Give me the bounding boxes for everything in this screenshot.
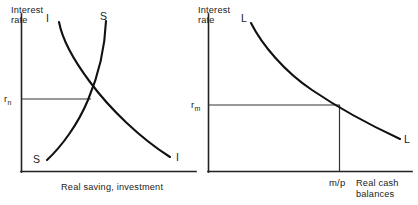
right-equilibrium-rate-label: rm bbox=[191, 99, 200, 112]
panel-loanable-funds: Interest rate rn I I S S Real saving, in… bbox=[4, 5, 196, 192]
investment-curve bbox=[59, 22, 170, 157]
left-y-axis-label-line1: Interest bbox=[11, 5, 43, 15]
economics-figure: Interest rate rn I I S S Real saving, in… bbox=[0, 0, 418, 205]
left-x-axis-label: Real saving, investment bbox=[61, 182, 163, 192]
saving-curve-label-bottom: S bbox=[33, 153, 40, 165]
figure-canvas: Interest rate rn I I S S Real saving, in… bbox=[0, 0, 418, 205]
right-y-axis-label-line2: rate bbox=[198, 15, 215, 25]
investment-curve-label-bottom: I bbox=[176, 151, 179, 163]
right-x-axis-label-line2: balances bbox=[356, 189, 395, 199]
saving-curve-label-top: S bbox=[100, 10, 107, 22]
right-equilibrium-quantity-label: m/p bbox=[329, 177, 345, 188]
panel-money-demand: Interest rate rm m/p L L Real cash balan… bbox=[191, 5, 412, 199]
left-y-axis-label-line2: rate bbox=[11, 15, 28, 25]
liquidity-curve-label-bottom: L bbox=[404, 133, 410, 145]
right-rate-subscript: m bbox=[194, 105, 200, 112]
right-x-axis-label-line1: Real cash bbox=[356, 178, 399, 188]
left-rate-subscript: n bbox=[7, 99, 11, 106]
investment-curve-label-top: I bbox=[46, 12, 49, 24]
liquidity-preference-curve bbox=[251, 23, 400, 139]
liquidity-curve-label-top: L bbox=[241, 12, 247, 24]
left-equilibrium-rate-label: rn bbox=[4, 93, 11, 106]
right-y-axis-label-line1: Interest bbox=[198, 5, 230, 15]
